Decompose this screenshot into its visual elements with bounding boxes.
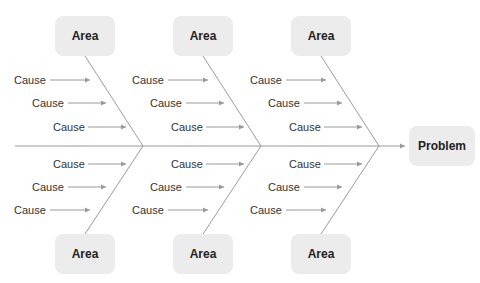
cause-label: Cause [171, 121, 203, 133]
cause-label: Cause [268, 181, 300, 193]
problem-box: Problem [409, 126, 475, 166]
cause-label: Cause [250, 74, 282, 86]
cause-label: Cause [14, 74, 46, 86]
area-box-top-1: Area [55, 16, 115, 56]
cause-label: Cause [150, 97, 182, 109]
area-box-top-2: Area [173, 16, 233, 56]
cause-label: Cause [32, 97, 64, 109]
cause-label: Cause [289, 158, 321, 170]
cause-label: Cause [250, 204, 282, 216]
cause-label: Cause [289, 121, 321, 133]
cause-label: Cause [132, 74, 164, 86]
cause-label: Cause [150, 181, 182, 193]
bone-top-1 [85, 56, 143, 146]
bone-top-2 [203, 56, 261, 146]
bone-top-3 [321, 56, 379, 146]
area-box-top-3: Area [291, 16, 351, 56]
cause-label: Cause [32, 181, 64, 193]
cause-label: Cause [53, 158, 85, 170]
cause-label: Cause [132, 204, 164, 216]
cause-label: Cause [14, 204, 46, 216]
bone-bottom-2 [203, 146, 261, 234]
bone-bottom-3 [321, 146, 379, 234]
area-box-bottom-2: Area [173, 234, 233, 274]
cause-label: Cause [171, 158, 203, 170]
cause-label: Cause [53, 121, 85, 133]
area-box-bottom-1: Area [55, 234, 115, 274]
cause-label: Cause [268, 97, 300, 109]
bone-bottom-1 [85, 146, 143, 234]
area-box-bottom-3: Area [291, 234, 351, 274]
